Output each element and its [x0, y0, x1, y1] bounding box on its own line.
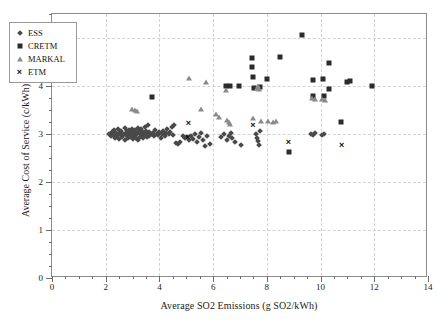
data-point-etm: × — [338, 141, 345, 148]
y-axis-tick — [46, 182, 52, 183]
y-axis-minor-tick — [49, 98, 52, 99]
gridline-vertical — [159, 14, 160, 276]
x-axis-tick-label: 2 — [103, 282, 108, 292]
data-point-markal — [223, 87, 229, 92]
x-axis-minor-tick — [240, 276, 241, 279]
y-axis-tick — [46, 134, 52, 135]
data-point-ess — [169, 124, 175, 130]
x-axis-minor-tick — [200, 276, 201, 279]
data-point-markal — [250, 116, 256, 121]
x-axis-label: Average SO2 Emissions (g SO2/kWh) — [51, 300, 427, 311]
data-point-ess — [200, 137, 206, 143]
data-point-ess — [173, 140, 179, 146]
data-point-cretm — [327, 87, 332, 92]
data-point-ess — [139, 126, 145, 132]
data-point-ess — [122, 137, 128, 143]
x-axis-minor-tick — [119, 276, 120, 279]
y-axis-minor-tick — [49, 122, 52, 123]
legend-item-ess[interactable]: ESS — [14, 26, 72, 39]
data-point-cretm — [311, 93, 316, 98]
data-point-markal — [273, 119, 279, 124]
x-axis-minor-tick — [294, 276, 295, 279]
x-axis-minor-tick — [361, 276, 362, 279]
y-axis-minor-tick — [49, 218, 52, 219]
x-axis-tick-label: 14 — [424, 282, 433, 292]
data-point-ess — [218, 135, 224, 141]
data-point-cretm — [286, 150, 291, 155]
x-axis-minor-tick — [280, 276, 281, 279]
plot-area: ××××× — [52, 14, 426, 276]
data-point-ess — [232, 139, 238, 145]
data-point-markal — [309, 96, 315, 101]
legend-label: CRETM — [28, 41, 57, 51]
gridline-vertical — [106, 14, 107, 276]
x-axis-tick-label: 0 — [50, 282, 55, 292]
data-point-etm: × — [285, 139, 292, 146]
data-point-ess — [190, 136, 196, 142]
y-axis-tick — [46, 230, 52, 231]
y-axis-minor-tick — [49, 146, 52, 147]
square-marker-icon — [14, 40, 25, 51]
legend-item-etm[interactable]: ×ETM — [14, 65, 72, 78]
data-point-ess — [136, 137, 142, 143]
x-axis-minor-tick — [334, 276, 335, 279]
data-point-markal — [203, 80, 209, 85]
legend-label: ESS — [28, 28, 43, 38]
plot-frame: ××××× 01234502468101214 — [51, 13, 427, 277]
data-point-ess — [144, 135, 150, 141]
data-point-ess — [194, 139, 200, 145]
gridline-horizontal — [52, 38, 426, 39]
data-point-cretm — [277, 55, 282, 60]
y-axis-minor-tick — [49, 266, 52, 267]
data-point-ess — [186, 137, 192, 143]
data-point-ess — [238, 142, 244, 148]
data-point-cretm — [299, 33, 304, 38]
x-axis-tick-label: 12 — [370, 282, 379, 292]
x-axis-minor-tick — [347, 276, 348, 279]
data-point-ess — [129, 126, 135, 132]
x-axis-tick-label: 8 — [265, 282, 270, 292]
data-point-ess — [140, 135, 146, 141]
data-point-cretm — [149, 95, 154, 100]
data-point-ess — [230, 135, 236, 141]
chart-legend: ESSCRETMMARKAL×ETM — [9, 22, 77, 83]
data-point-ess — [142, 124, 148, 130]
x-axis-minor-tick — [388, 276, 389, 279]
data-point-markal — [256, 86, 262, 91]
x-axis-minor-tick — [65, 276, 66, 279]
data-point-ess — [125, 135, 131, 141]
data-point-ess — [116, 136, 122, 142]
data-point-ess — [115, 126, 121, 132]
data-point-markal — [198, 106, 204, 111]
legend-item-cretm[interactable]: CRETM — [14, 39, 72, 52]
gridline-vertical — [321, 14, 322, 276]
legend-label: ETM — [28, 67, 46, 77]
x-axis-minor-tick — [92, 276, 93, 279]
x-axis-minor-tick — [253, 276, 254, 279]
gridline-horizontal — [52, 230, 426, 231]
data-point-ess — [153, 127, 159, 133]
data-point-markal — [132, 108, 138, 113]
y-axis-tick — [46, 86, 52, 87]
legend-label: MARKAL — [28, 54, 65, 64]
y-axis-tick-label: 1 — [39, 225, 44, 235]
y-axis-minor-tick — [49, 170, 52, 171]
data-point-ess — [165, 126, 171, 132]
data-point-ess — [178, 139, 184, 145]
y-axis-minor-tick — [49, 110, 52, 111]
data-point-markal — [322, 98, 328, 103]
y-axis-tick-label: 2 — [39, 177, 44, 187]
x-axis-minor-tick — [146, 276, 147, 279]
data-point-ess — [224, 137, 230, 143]
x-axis-minor-tick — [79, 276, 80, 279]
data-point-cretm — [310, 78, 315, 83]
legend-item-markal[interactable]: MARKAL — [14, 52, 72, 65]
y-axis-tick-label: 3 — [39, 129, 44, 139]
x-axis-minor-tick — [401, 276, 402, 279]
gridline-horizontal — [52, 86, 426, 87]
triangle-marker-icon — [14, 53, 25, 64]
data-point-cretm — [347, 79, 352, 84]
data-point-cretm — [326, 61, 331, 66]
data-point-ess — [119, 135, 125, 141]
data-point-ess — [202, 143, 208, 149]
